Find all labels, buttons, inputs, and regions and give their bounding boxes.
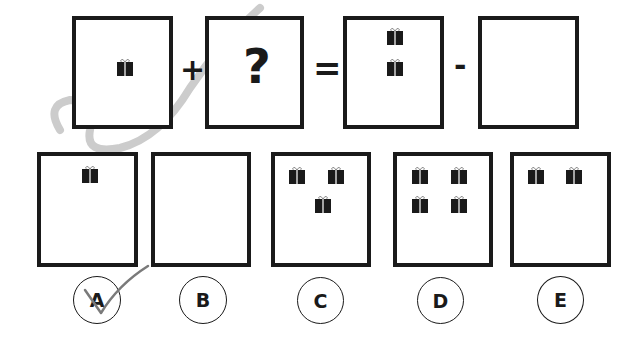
option-a-label: A [90,289,105,311]
gift-icon [527,166,545,184]
option-e-box[interactable] [510,152,611,267]
gift-icon [386,27,404,45]
option-d-box[interactable] [393,152,493,267]
option-b-button[interactable]: B [179,276,227,324]
equals-symbol: = [313,48,342,88]
option-d-label: D [433,290,449,312]
option-a-button[interactable]: A [73,276,121,324]
gift-icon [450,195,468,213]
option-a-box[interactable] [37,152,138,267]
option-b-label: B [196,289,210,311]
result-box [343,16,444,129]
option-b-box[interactable] [151,152,251,267]
gift-icon [327,166,345,184]
gift-icon [565,166,583,184]
subtrahend-box [478,16,579,129]
gift-icon [411,166,429,184]
option-c-button[interactable]: C [297,277,344,324]
option-e-label: E [554,289,567,311]
gift-icon [288,166,306,184]
plus-symbol: + [180,52,205,87]
option-c-box[interactable] [271,152,371,267]
gift-icon [314,195,332,213]
option-c-label: C [314,290,328,312]
gift-icon [450,166,468,184]
unknown-box: ? [205,16,304,129]
option-e-button[interactable]: E [537,276,584,324]
gift-icon [411,195,429,213]
option-d-button[interactable]: D [417,277,464,324]
gift-icon [116,58,134,76]
question-mark: ? [243,38,271,94]
gift-icon [81,165,99,183]
operand-box [72,16,173,129]
minus-symbol: - [454,48,466,83]
gift-icon [386,58,404,76]
